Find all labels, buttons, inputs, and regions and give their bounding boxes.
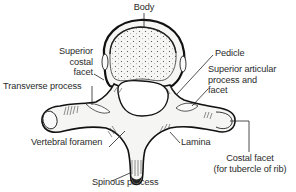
label-line: (for tubercle of rib) [206,164,294,175]
label-line: Superior [44,46,93,57]
label-body: Body [131,2,157,13]
label-costal-facet: Costal facet (for tubercle of rib) [206,153,294,174]
label-transverse-process: Transverse process [3,81,82,92]
label-superior-articular-process: Superior articular process and facet [208,64,276,96]
label-superior-costal-facet: Superior costal facet [44,46,93,78]
label-line: Costal facet [206,153,294,164]
vertebral-foramen-shape [118,81,168,116]
label-spinous-process: Spinous process [92,177,158,188]
label-line: process and [208,75,276,86]
label-line: costal [44,57,93,68]
label-pedicle: Pedicle [215,48,244,59]
vertebral-body [102,20,186,88]
label-vertebral-foramen: Vertebral foramen [31,137,102,148]
label-line: facet [44,67,93,78]
label-line: Superior articular [208,64,276,75]
label-line: facet [208,85,276,96]
vertebra-diagram: Body Superior costal facet Transverse pr… [0,0,296,192]
label-lamina: Lamina [181,137,211,148]
leader-superior-costal-facet [94,74,104,80]
leader-lamina [170,132,180,143]
